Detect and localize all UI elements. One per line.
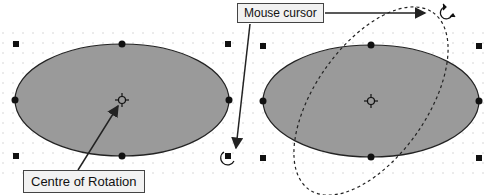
handle-top-right: [225, 41, 231, 47]
right-ellipse-shape[interactable]: [263, 45, 479, 157]
left-ellipse-shape[interactable]: [15, 44, 229, 156]
mouse-cursor-label: Mouse cursor: [237, 3, 324, 23]
handle-left: [12, 97, 19, 104]
centre-of-rotation-label: Centre of Rotation: [23, 170, 145, 193]
handle-bottom-left: [13, 153, 19, 159]
handle-right: [226, 97, 233, 104]
rotate-cursor-icon: [440, 4, 455, 19]
handle-top-left: [13, 41, 19, 47]
handle-bottom: [119, 153, 126, 160]
handle-top: [119, 41, 126, 48]
diagram-canvas: [0, 0, 488, 195]
